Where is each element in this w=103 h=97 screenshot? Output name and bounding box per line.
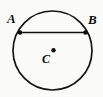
endpoint-dot-icon-b	[83, 30, 88, 35]
point-label-b: B	[88, 13, 97, 26]
center-label-c: C	[42, 53, 50, 66]
geometry-figure: A B C	[0, 0, 103, 97]
endpoint-dot-icon-a	[18, 30, 23, 35]
point-label-a: A	[7, 12, 16, 25]
center-point-dot-icon	[51, 48, 55, 52]
